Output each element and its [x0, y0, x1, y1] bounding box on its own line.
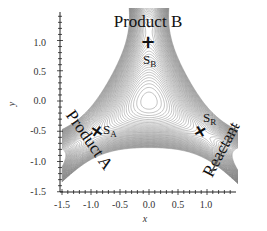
svg-text:SA: SA [103, 122, 117, 139]
y-tick-label: -1.0 [30, 156, 46, 167]
y-tick-label: 0.0 [34, 95, 47, 106]
product-b-label: Product B [114, 12, 182, 31]
x-tick-label: -1.5 [54, 199, 70, 210]
plus-marker-icon: + [140, 31, 155, 52]
svg-text:SR: SR [203, 110, 216, 127]
x-tick-label: 1.0 [200, 199, 213, 210]
y-tick-label: -0.5 [30, 125, 46, 136]
y-axis-label: y [6, 101, 17, 107]
x-axis-label: x [142, 213, 148, 224]
y-tick-label: 0.5 [34, 66, 47, 77]
x-axis [60, 189, 236, 195]
contour-chart: -1.5 -1.0 -0.5 0.0 0.5 1.0 -1.5 -1.0 -0.… [0, 0, 267, 231]
y-tick-label: 1.0 [34, 37, 47, 48]
x-tick-label: 0.5 [172, 199, 185, 210]
y-tick-label: -1.5 [30, 186, 46, 197]
y-axis [57, 12, 63, 192]
point-sb: + SB [140, 31, 156, 69]
x-tick-label: -0.5 [112, 199, 128, 210]
x-tick-label: -1.0 [83, 199, 99, 210]
x-tick-label: 0.0 [143, 199, 156, 210]
